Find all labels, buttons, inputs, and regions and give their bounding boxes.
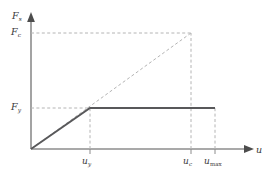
force-displacement-diagram: Fs Fc Fy uy uc umax u bbox=[0, 0, 275, 180]
x-axis-arrowhead bbox=[244, 145, 254, 153]
y-tick-label-fc-subscript: c bbox=[18, 32, 21, 38]
y-tick-label-fy-subscript: y bbox=[18, 107, 21, 113]
x-tick-label-uy-main: u bbox=[82, 156, 88, 166]
y-tick-label-fc: Fc bbox=[11, 27, 21, 37]
plot-canvas bbox=[0, 0, 275, 180]
y-tick-label-fy-main: F bbox=[11, 101, 18, 112]
x-tick-label-umax: umax bbox=[204, 157, 222, 166]
y-axis-arrowhead bbox=[27, 12, 35, 22]
x-tick-label-uc-subscript: c bbox=[189, 161, 192, 167]
x-tick-label-uy-subscript: y bbox=[88, 161, 91, 167]
x-tick-label-uc: uc bbox=[183, 157, 192, 166]
y-axis-title-main: F bbox=[12, 10, 19, 21]
y-tick-label-fy: Fy bbox=[11, 102, 21, 112]
x-axis-title-main: u bbox=[256, 144, 262, 155]
x-axis-title: u bbox=[256, 145, 262, 155]
x-tick-label-uy: uy bbox=[82, 157, 91, 166]
y-tick-label-fc-main: F bbox=[11, 26, 18, 37]
y-axis-title: Fs bbox=[12, 11, 22, 21]
x-tick-label-umax-main: u bbox=[204, 156, 210, 166]
y-axis-title-subscript: s bbox=[19, 16, 22, 22]
x-tick-label-umax-subscript: max bbox=[210, 161, 222, 167]
x-tick-label-uc-main: u bbox=[183, 156, 189, 166]
